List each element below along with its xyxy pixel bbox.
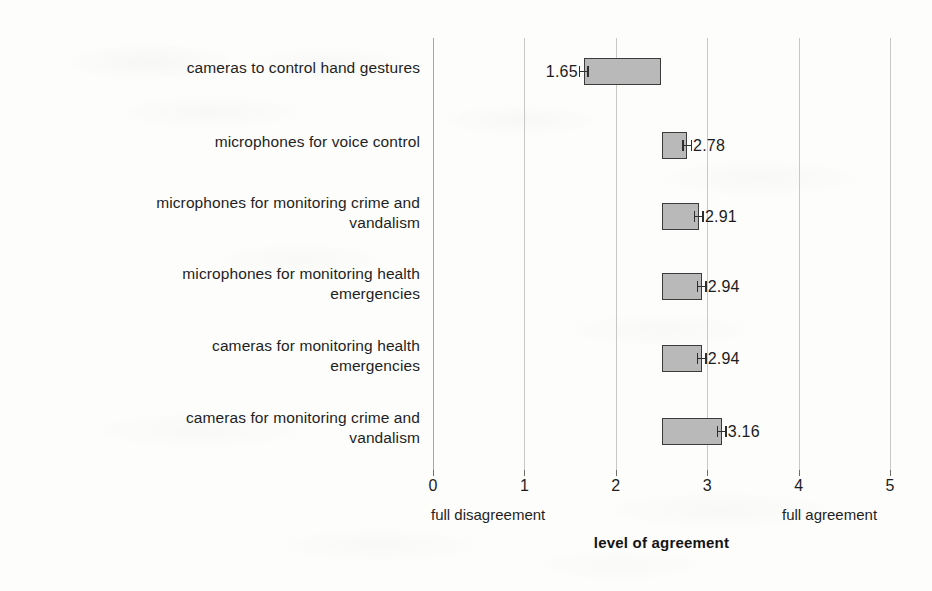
error-bar-5 [717,418,727,445]
tickmark-1 [524,470,525,476]
tickmark-3 [707,470,708,476]
x-tick-label-4: 4 [779,477,819,495]
bar-3 [662,273,702,300]
gridline-1 [524,38,525,470]
scale-anchor-high-label: full agreement [782,506,877,523]
bar-value-label-0: 1.65 [546,58,578,85]
category-label-1-line1: microphones for voice control [20,132,420,152]
error-bar-cap-right-4 [705,353,707,364]
error-bar-cap-right-0 [587,66,589,77]
x-tick-label-5: 5 [870,477,910,495]
error-bar-cap-left-4 [697,353,699,364]
bar-4 [662,345,702,372]
gridline-5 [890,38,891,470]
error-bar-cap-right-1 [691,140,693,151]
gridline-2 [616,38,617,470]
category-label-5-line1: cameras for monitoring crime and [20,408,420,428]
tickmark-2 [616,470,617,476]
tickmark-0 [433,470,434,476]
tickmark-5 [890,470,891,476]
category-label-2-line1: microphones for monitoring crime and [20,193,420,213]
error-bar-cap-right-5 [725,426,727,437]
error-bar-cap-left-2 [694,211,696,222]
gridline-0 [433,38,434,470]
plot-area: 1.652.782.912.942.943.16 [433,38,890,470]
scale-anchor-low-label: full disagreement [431,506,545,523]
category-label-4: cameras for monitoring health emergencie… [20,336,420,376]
category-label-2-line2: vandalism [20,213,420,233]
category-label-3-line2: emergencies [20,284,420,304]
error-bar-cap-left-3 [697,281,699,292]
category-label-0-line1: cameras to control hand gestures [20,58,420,78]
error-bar-1 [682,132,692,159]
error-bar-cap-right-2 [702,211,704,222]
category-label-4-line1: cameras for monitoring health [20,336,420,356]
horizontal-bar-chart: cameras to control hand gestures microph… [0,0,932,591]
bar-5 [662,418,722,445]
error-bar-4 [697,345,707,372]
category-label-0: cameras to control hand gestures [20,58,420,78]
bar-value-label-3: 2.94 [708,273,740,300]
category-label-1: microphones for voice control [20,132,420,152]
gridline-4 [799,38,800,470]
x-tick-label-3: 3 [687,477,727,495]
error-bar-0 [579,58,589,85]
error-bar-cap-right-3 [705,281,707,292]
bar-value-label-4: 2.94 [708,345,740,372]
category-label-2: microphones for monitoring crime and van… [20,193,420,233]
x-tick-label-1: 1 [504,477,544,495]
error-bar-cap-left-1 [682,140,684,151]
x-tick-label-2: 2 [596,477,636,495]
error-bar-3 [697,273,707,300]
error-bar-cap-left-0 [579,66,581,77]
bar-value-label-2: 2.91 [705,203,737,230]
category-label-3: microphones for monitoring health emerge… [20,264,420,304]
error-bar-2 [694,203,704,230]
tickmark-4 [799,470,800,476]
bar-0 [584,58,662,85]
error-bar-cap-left-5 [717,426,719,437]
category-label-5: cameras for monitoring crime and vandali… [20,408,420,448]
x-axis-title: level of agreement [433,534,890,551]
category-label-5-line2: vandalism [20,428,420,448]
x-tick-label-0: 0 [413,477,453,495]
bar-value-label-1: 2.78 [693,132,725,159]
bar-value-label-5: 3.16 [728,418,760,445]
category-label-4-line2: emergencies [20,356,420,376]
gridline-3 [707,38,708,470]
category-label-3-line1: microphones for monitoring health [20,264,420,284]
